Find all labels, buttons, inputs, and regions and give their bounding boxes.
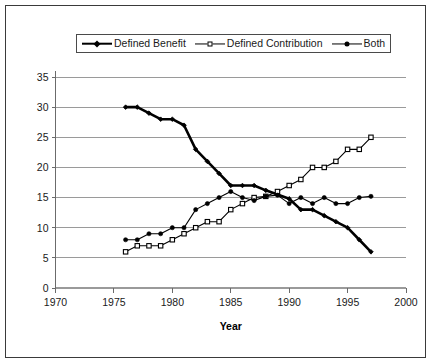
x-axis-title: Year — [220, 320, 242, 332]
data-point-marker — [287, 202, 291, 206]
data-point-marker — [182, 226, 186, 230]
data-point-marker — [158, 244, 162, 248]
y-tick-label: 5 — [43, 252, 49, 264]
x-tick-label: 1985 — [219, 296, 243, 308]
data-point-marker — [194, 226, 198, 230]
data-point-marker — [299, 195, 303, 199]
data-point-marker — [135, 244, 139, 248]
gridlines — [56, 77, 407, 258]
data-point-marker — [170, 238, 174, 242]
data-point-marker — [252, 198, 256, 202]
data-point-marker — [310, 165, 314, 169]
data-point-marker — [205, 219, 209, 223]
data-point-marker — [334, 202, 338, 206]
data-point-marker — [357, 195, 361, 199]
data-point-marker — [240, 183, 245, 188]
data-point-marker — [299, 177, 303, 181]
y-tick-label: 25 — [37, 131, 49, 143]
series-defined-contribution — [123, 135, 373, 254]
data-point-marker — [205, 202, 209, 206]
data-point-marker — [194, 208, 198, 212]
chart-screenshot: Defined Benefit Defined Contribution Bot… — [0, 0, 431, 363]
x-tick-marks — [56, 288, 407, 293]
data-point-marker — [123, 105, 128, 110]
data-point-marker — [264, 194, 268, 198]
data-point-marker — [275, 193, 279, 197]
y-tick-label: 0 — [43, 282, 49, 294]
data-point-marker — [229, 207, 233, 211]
y-tick-label: 20 — [37, 161, 49, 173]
x-tick-label: 1990 — [277, 296, 301, 308]
x-tick-label: 1995 — [336, 296, 360, 308]
y-tick-label: 30 — [37, 101, 49, 113]
y-tick-label: 35 — [37, 71, 49, 83]
x-tick-label: 1975 — [102, 296, 126, 308]
data-point-marker — [287, 183, 291, 187]
data-point-marker — [345, 147, 349, 151]
data-point-marker — [159, 232, 163, 236]
data-point-marker — [217, 195, 221, 199]
data-series-layer — [123, 105, 373, 254]
data-point-marker — [322, 195, 326, 199]
chart-canvas: Defined Benefit Defined Contribution Bot… — [0, 0, 431, 363]
data-point-marker — [310, 202, 314, 206]
x-tick-label: 2000 — [394, 296, 418, 308]
data-point-marker — [182, 232, 186, 236]
x-tick-labels: 1970197519801985199019952000 — [44, 296, 418, 308]
data-point-marker — [124, 238, 128, 242]
data-point-marker — [170, 226, 174, 230]
data-point-marker — [135, 238, 139, 242]
data-point-marker — [240, 195, 244, 199]
data-point-marker — [357, 147, 361, 151]
data-point-marker — [345, 202, 349, 206]
data-point-marker — [240, 201, 244, 205]
data-point-marker — [147, 232, 151, 236]
x-tick-label: 1970 — [44, 296, 68, 308]
x-tick-label: 1980 — [161, 296, 185, 308]
data-point-marker — [217, 219, 221, 223]
plot-svg: 05101520253035 1970197519801985199019952… — [0, 0, 431, 363]
data-point-marker — [369, 194, 373, 198]
data-point-marker — [334, 159, 338, 163]
data-point-marker — [147, 244, 151, 248]
y-tick-label: 10 — [37, 222, 49, 234]
data-point-marker — [369, 135, 373, 139]
data-point-marker — [123, 250, 127, 254]
y-tick-label: 15 — [37, 191, 49, 203]
data-point-marker — [229, 189, 233, 193]
x-axis-title-text: Year — [220, 320, 242, 332]
data-point-marker — [322, 165, 326, 169]
y-tick-labels: 05101520253035 — [37, 71, 49, 294]
